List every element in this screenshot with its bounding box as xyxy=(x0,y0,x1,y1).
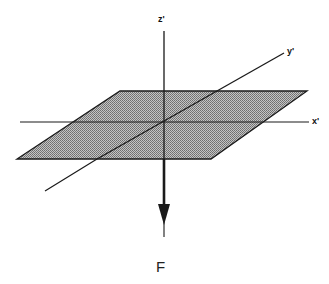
x-axis-label: x' xyxy=(312,117,319,126)
diagram-canvas: z' y' x' F xyxy=(0,0,329,284)
y-axis-label: y' xyxy=(287,47,294,56)
z-axis-label: z' xyxy=(158,15,165,24)
plane xyxy=(17,91,307,159)
diagram-svg xyxy=(0,0,329,284)
force-arrowhead-icon xyxy=(158,204,170,225)
force-label: F xyxy=(156,259,165,274)
y-axis-lower xyxy=(45,159,97,191)
